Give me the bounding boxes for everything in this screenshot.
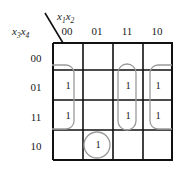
row-header-3: 10 — [24, 141, 48, 152]
cell-r1-c3[interactable]: 1 — [143, 71, 173, 101]
row-header-2: 11 — [24, 112, 48, 123]
cell-r0-c0[interactable] — [53, 42, 83, 72]
cell-r2-c3[interactable]: 1 — [143, 101, 173, 131]
cell-r2-c0[interactable]: 1 — [53, 101, 83, 131]
cell-r2-c2[interactable]: 1 — [113, 101, 143, 131]
cell-r3-c0[interactable] — [53, 130, 83, 160]
cell-r3-c1[interactable]: 1 — [83, 130, 113, 160]
cell-value: 1 — [125, 111, 130, 122]
cell-r3-c3[interactable] — [143, 130, 173, 160]
cell-r1-c1[interactable] — [83, 71, 113, 101]
cell-r0-c3[interactable] — [143, 42, 173, 72]
row-header-0: 00 — [24, 53, 48, 64]
cell-value: 1 — [95, 140, 100, 151]
cell-value: 1 — [155, 81, 160, 92]
cell-r3-c2[interactable] — [113, 130, 143, 160]
karnaugh-map-figure: x1x2 x3x4 00 01 11 10 00 01 11 10 — [0, 0, 181, 169]
column-header-2: 11 — [112, 26, 142, 37]
column-header-3: 10 — [142, 26, 172, 37]
cell-r1-c2[interactable]: 1 — [113, 71, 143, 101]
cell-r0-c1[interactable] — [83, 42, 113, 72]
cell-value: 1 — [65, 81, 70, 92]
cell-value: 1 — [155, 111, 160, 122]
cell-value: 1 — [65, 111, 70, 122]
column-header-1: 01 — [82, 26, 112, 37]
kmap-grid: 1 1 1 1 1 1 1 — [52, 42, 172, 160]
row-header-1: 01 — [24, 82, 48, 93]
column-header-0: 00 — [52, 26, 82, 37]
cell-r1-c0[interactable]: 1 — [53, 71, 83, 101]
cell-value: 1 — [125, 81, 130, 92]
cell-r2-c1[interactable] — [83, 101, 113, 131]
cell-r0-c2[interactable] — [113, 42, 143, 72]
